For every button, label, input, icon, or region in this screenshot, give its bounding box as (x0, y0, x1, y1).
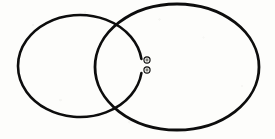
rings-diagram (0, 0, 275, 139)
upper-marker (144, 57, 150, 63)
lower-marker-inner-dot (146, 69, 149, 72)
lower-marker (144, 67, 150, 73)
left-ring (18, 15, 141, 117)
marker-group (144, 57, 150, 73)
upper-marker-inner-dot (146, 59, 149, 62)
right-ring (95, 4, 259, 130)
figure-canvas (0, 0, 275, 139)
left-ring-upper-arc (18, 15, 141, 117)
right-ring-outline (95, 4, 259, 130)
